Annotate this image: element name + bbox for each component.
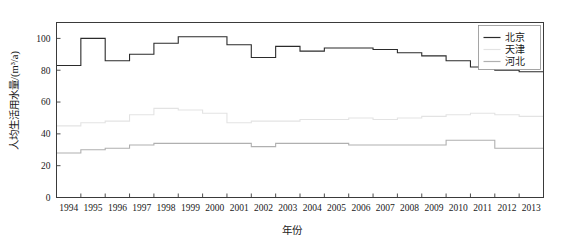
- y-tick-label: 0: [46, 193, 51, 203]
- y-tick-label: 80: [41, 66, 51, 76]
- legend-label-2: 河北: [505, 56, 525, 67]
- chart-legend: 北京天津河北: [479, 26, 541, 70]
- y-tick-label: 60: [41, 97, 51, 107]
- y-tick-label: 100: [36, 34, 51, 44]
- x-tick-label: 1994: [59, 203, 78, 213]
- x-tick-label: 1998: [157, 203, 176, 213]
- x-axis-ticks: [57, 194, 544, 198]
- series-line-0: [57, 37, 544, 72]
- data-series-layer: [57, 37, 544, 153]
- x-tick-label: 1996: [108, 203, 127, 213]
- x-axis-tick-labels: 1994199519961997199819992000200120022003…: [59, 203, 541, 213]
- x-tick-label: 2003: [278, 203, 297, 213]
- x-tick-label: 1995: [84, 203, 103, 213]
- chart-plot-area: 020406080100 199419951996199719981999200…: [0, 0, 566, 247]
- x-tick-label: 2007: [376, 203, 395, 213]
- legend-label-1: 天津: [505, 44, 525, 55]
- y-tick-label: 40: [41, 129, 51, 139]
- x-tick-label: 2000: [205, 203, 224, 213]
- x-axis-title-text: 年份: [264, 222, 302, 237]
- x-tick-label: 2011: [473, 203, 492, 213]
- series-line-2: [57, 140, 544, 153]
- x-tick-label: 2004: [303, 203, 322, 213]
- series-line-1: [57, 108, 544, 126]
- y-axis-ticks: [57, 38, 61, 197]
- x-tick-label: 2001: [230, 203, 249, 213]
- legend-label-0: 北京: [505, 31, 525, 43]
- x-tick-label: 2010: [449, 203, 468, 213]
- x-axis-title: 年份: [0, 222, 566, 237]
- y-tick-label: 20: [41, 161, 51, 171]
- x-tick-label: 1997: [132, 203, 151, 213]
- x-tick-label: 1999: [181, 203, 200, 213]
- x-tick-label: 2005: [327, 203, 346, 213]
- x-tick-label: 2013: [522, 203, 541, 213]
- x-tick-label: 2008: [400, 203, 419, 213]
- y-axis-tick-labels: 020406080100: [36, 34, 51, 203]
- chart-figure: 人均生活用水量/(m³/a) 020406080100 199419951996…: [0, 0, 566, 247]
- x-tick-label: 2012: [497, 203, 516, 213]
- x-tick-label: 2006: [351, 203, 370, 213]
- x-tick-label: 2009: [424, 203, 443, 213]
- x-tick-label: 2002: [254, 203, 273, 213]
